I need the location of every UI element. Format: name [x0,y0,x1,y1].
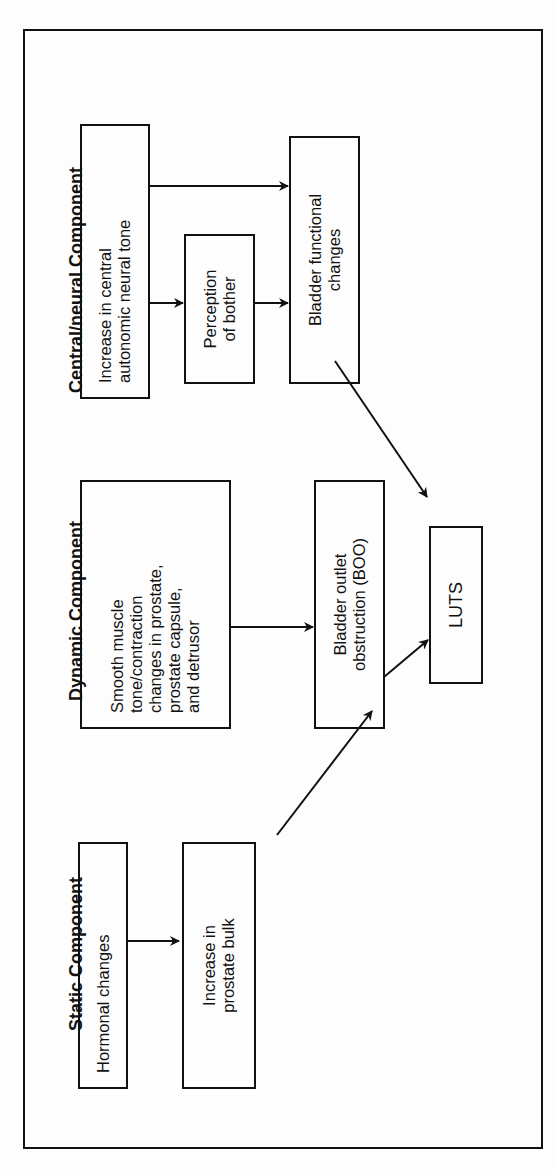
node-central-autonomic-tone: Increase in central autonomic neural ton… [80,124,150,399]
node-luts: LUTS [429,526,483,684]
node-text: Hormonal changes [94,935,113,1074]
node-increase-prostate-bulk: Increase in prostate bulk [182,842,256,1089]
arrow-boo-to-luts [384,640,428,677]
node-bladder-functional-changes: Bladder functional changes [289,136,360,384]
node-text: LUTS [447,582,466,628]
node-text: Bladder outlet obstruction (BOO) [331,538,369,671]
node-text: Perception of bother [201,270,239,349]
node-smooth-muscle-changes: Smooth muscle tone/contraction changes i… [80,480,231,729]
diagram-frame: Static Component Dynamic Component Centr… [23,29,543,1149]
node-perception-of-bother: Perception of bother [184,234,255,384]
node-bladder-outlet-obstruction: Bladder outlet obstruction (BOO) [314,480,385,729]
node-text: Smooth muscle tone/contraction changes i… [108,564,203,713]
node-text: Increase in prostate bulk [200,918,238,1012]
arrow-bulk-to-boo [277,711,372,835]
node-text: Increase in central autonomic neural ton… [96,220,134,383]
node-text: Bladder functional changes [306,194,344,326]
node-hormonal-changes: Hormonal changes [78,842,128,1089]
